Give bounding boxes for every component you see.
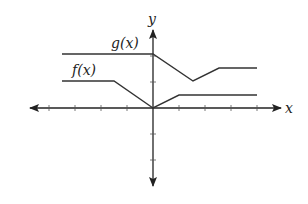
y-axis-label: y — [147, 11, 157, 27]
x-axis-label: x — [285, 100, 293, 116]
g-label: g(x) — [111, 35, 139, 51]
function-graph: y x g(x) f(x) — [0, 0, 308, 204]
f-curve — [62, 81, 257, 108]
f-label: f(x) — [71, 62, 96, 78]
